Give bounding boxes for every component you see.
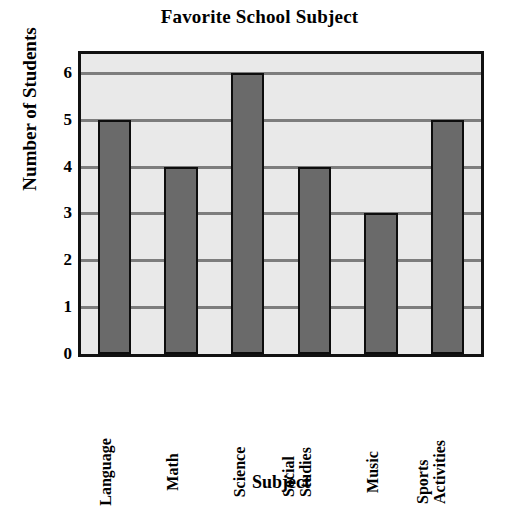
bar-chart: Favorite School Subject Number of Studen… [0,0,519,513]
y-tick-label: 6 [46,63,72,83]
y-axis-tick-labels: 0123456 [46,51,72,357]
bar [298,167,331,355]
x-tick-label: Music [348,360,415,472]
x-tick-label: Science [214,360,281,472]
bar [164,167,197,355]
x-tick-label: SportsActivities [414,360,481,472]
plot-inner [81,54,481,354]
y-tick-label: 2 [46,250,72,270]
y-axis-title: Number of Students [16,0,44,219]
x-axis-title: Subject [78,472,484,493]
chart-title: Favorite School Subject [0,6,519,28]
y-tick-label: 1 [46,297,72,317]
y-tick-label: 5 [46,110,72,130]
bar [231,73,264,354]
x-tick-label: SocialStudies [281,360,348,472]
y-tick-label: 3 [46,203,72,223]
gridline [81,306,481,309]
plot-area [78,51,484,357]
y-tick-label: 4 [46,157,72,177]
bar [431,120,464,354]
x-tick-label: Language [81,360,148,472]
gridline [81,119,481,122]
y-tick-label: 0 [46,344,72,364]
x-tick-label: Math [148,360,215,472]
x-axis-tick-labels: LanguageMathScienceSocialStudiesMusicSpo… [78,360,484,472]
gridline [81,72,481,75]
gridline [81,212,481,215]
bar [364,213,397,354]
gridline [81,259,481,262]
gridline [81,166,481,169]
bar [98,120,131,354]
